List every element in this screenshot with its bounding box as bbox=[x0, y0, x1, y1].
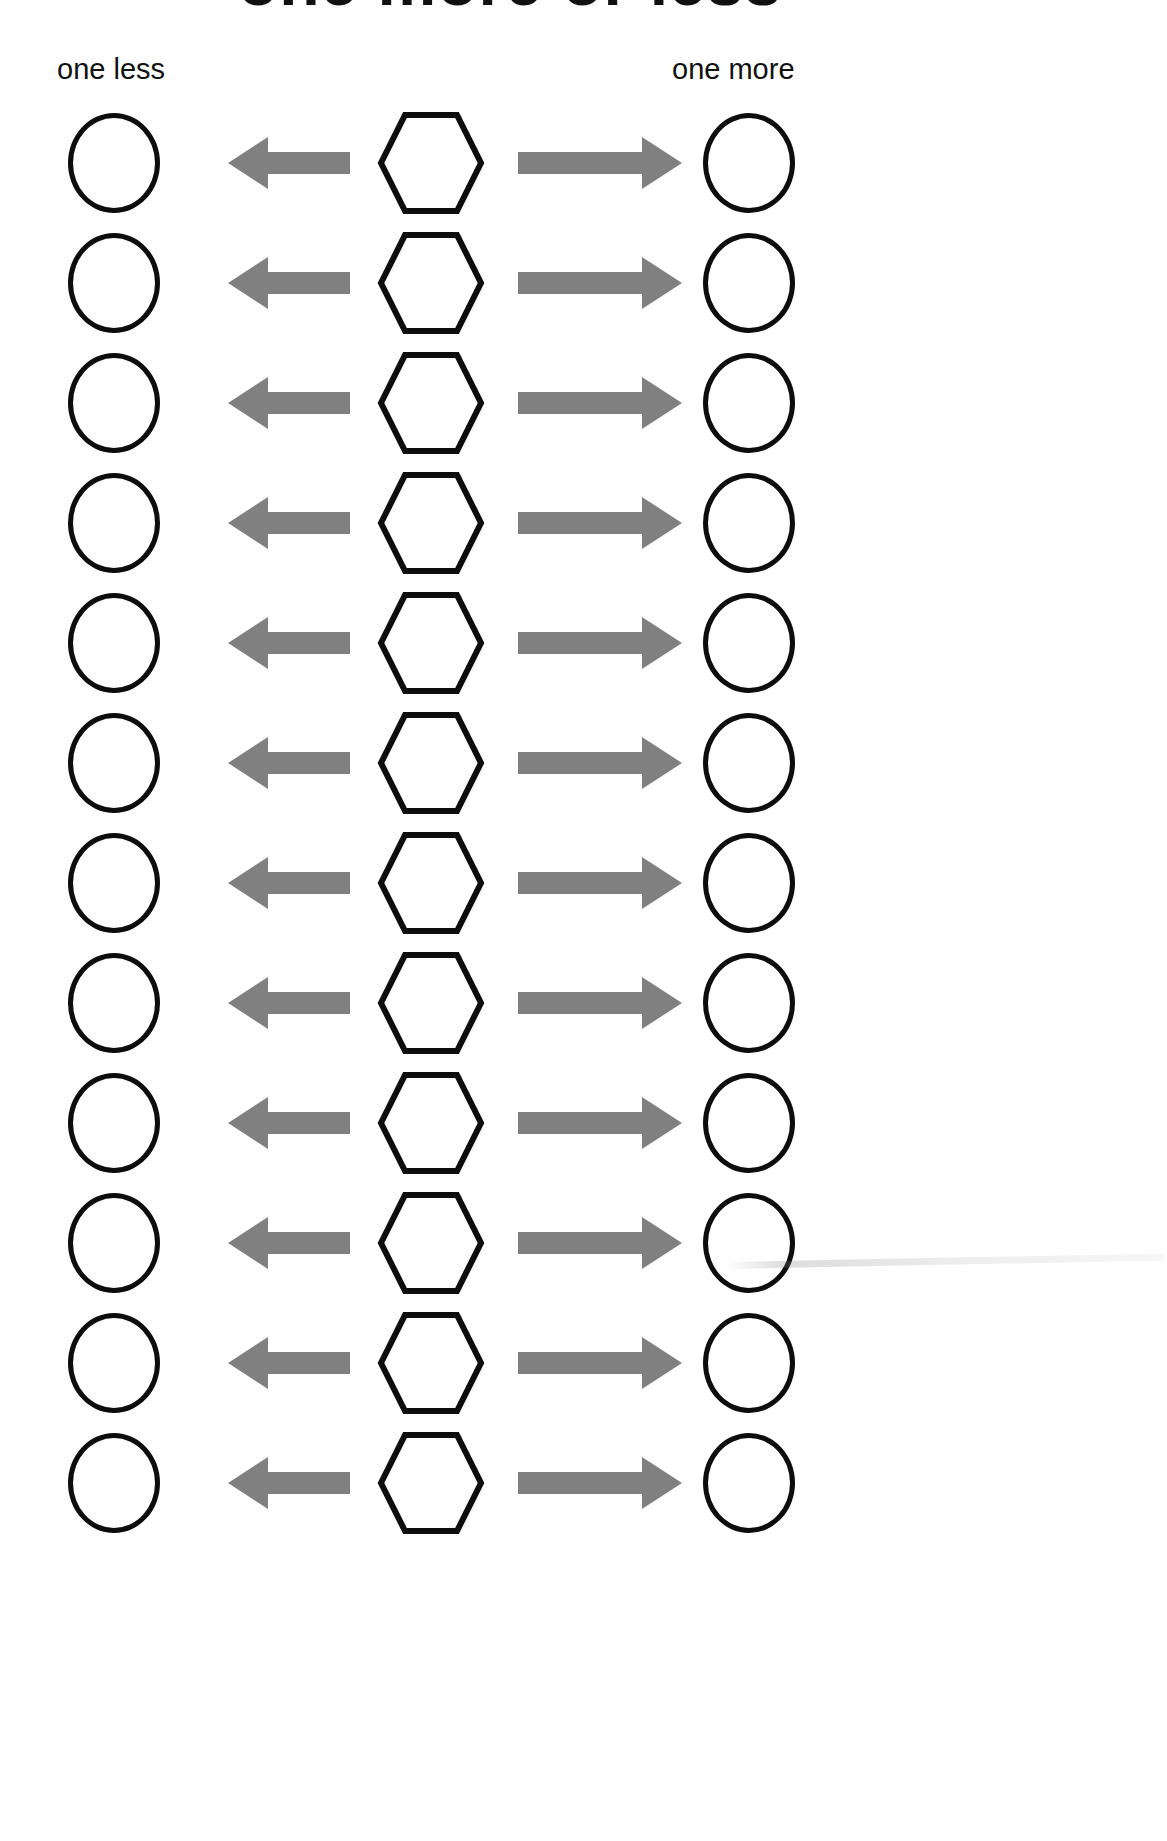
exercise-row bbox=[0, 105, 1167, 225]
arrow-right-icon bbox=[518, 855, 682, 911]
arrow-right-icon bbox=[518, 255, 682, 311]
worksheet-page: one more or less one less one more bbox=[0, 0, 1167, 1841]
exercise-row bbox=[0, 585, 1167, 705]
answer-circle-one-more[interactable] bbox=[703, 113, 795, 213]
exercise-row bbox=[0, 1185, 1167, 1305]
arrow-left-icon bbox=[228, 1455, 350, 1511]
arrow-left-icon bbox=[228, 855, 350, 911]
arrow-left-icon bbox=[228, 1335, 350, 1391]
arrow-left-icon bbox=[228, 615, 350, 671]
answer-circle-one-more[interactable] bbox=[703, 1313, 795, 1413]
answer-circle-one-less[interactable] bbox=[68, 593, 160, 693]
number-hexagon[interactable] bbox=[375, 587, 487, 699]
number-hexagon[interactable] bbox=[375, 1067, 487, 1179]
answer-circle-one-less[interactable] bbox=[68, 113, 160, 213]
number-hexagon[interactable] bbox=[375, 827, 487, 939]
exercise-row bbox=[0, 225, 1167, 345]
answer-circle-one-less[interactable] bbox=[68, 953, 160, 1053]
exercise-row bbox=[0, 345, 1167, 465]
arrow-right-icon bbox=[518, 135, 682, 191]
arrow-left-icon bbox=[228, 255, 350, 311]
arrow-right-icon bbox=[518, 1335, 682, 1391]
answer-circle-one-less[interactable] bbox=[68, 833, 160, 933]
number-hexagon[interactable] bbox=[375, 1427, 487, 1539]
number-hexagon[interactable] bbox=[375, 947, 487, 1059]
answer-circle-one-more[interactable] bbox=[703, 473, 795, 573]
answer-circle-one-less[interactable] bbox=[68, 1193, 160, 1293]
arrow-left-icon bbox=[228, 975, 350, 1031]
answer-circle-one-more[interactable] bbox=[703, 233, 795, 333]
answer-circle-one-more[interactable] bbox=[703, 1193, 795, 1293]
exercise-rows bbox=[0, 0, 1167, 1841]
answer-circle-one-less[interactable] bbox=[68, 473, 160, 573]
number-hexagon[interactable] bbox=[375, 347, 487, 459]
number-hexagon[interactable] bbox=[375, 707, 487, 819]
answer-circle-one-more[interactable] bbox=[703, 1433, 795, 1533]
answer-circle-one-more[interactable] bbox=[703, 1073, 795, 1173]
exercise-row bbox=[0, 1065, 1167, 1185]
exercise-row bbox=[0, 1305, 1167, 1425]
arrow-left-icon bbox=[228, 375, 350, 431]
arrow-right-icon bbox=[518, 615, 682, 671]
arrow-left-icon bbox=[228, 1095, 350, 1151]
answer-circle-one-less[interactable] bbox=[68, 1433, 160, 1533]
answer-circle-one-more[interactable] bbox=[703, 713, 795, 813]
exercise-row bbox=[0, 825, 1167, 945]
answer-circle-one-less[interactable] bbox=[68, 1313, 160, 1413]
arrow-right-icon bbox=[518, 1455, 682, 1511]
arrow-right-icon bbox=[518, 735, 682, 791]
arrow-left-icon bbox=[228, 1215, 350, 1271]
arrow-left-icon bbox=[228, 135, 350, 191]
exercise-row bbox=[0, 1425, 1167, 1545]
exercise-row bbox=[0, 705, 1167, 825]
answer-circle-one-less[interactable] bbox=[68, 353, 160, 453]
arrow-right-icon bbox=[518, 375, 682, 431]
answer-circle-one-less[interactable] bbox=[68, 1073, 160, 1173]
arrow-right-icon bbox=[518, 1215, 682, 1271]
number-hexagon[interactable] bbox=[375, 1307, 487, 1419]
arrow-right-icon bbox=[518, 1095, 682, 1151]
answer-circle-one-less[interactable] bbox=[68, 233, 160, 333]
answer-circle-one-less[interactable] bbox=[68, 713, 160, 813]
number-hexagon[interactable] bbox=[375, 467, 487, 579]
arrow-right-icon bbox=[518, 975, 682, 1031]
answer-circle-one-more[interactable] bbox=[703, 353, 795, 453]
number-hexagon[interactable] bbox=[375, 107, 487, 219]
number-hexagon[interactable] bbox=[375, 227, 487, 339]
answer-circle-one-more[interactable] bbox=[703, 833, 795, 933]
exercise-row bbox=[0, 945, 1167, 1065]
arrow-left-icon bbox=[228, 735, 350, 791]
arrow-left-icon bbox=[228, 495, 350, 551]
number-hexagon[interactable] bbox=[375, 1187, 487, 1299]
exercise-row bbox=[0, 465, 1167, 585]
answer-circle-one-more[interactable] bbox=[703, 953, 795, 1053]
arrow-right-icon bbox=[518, 495, 682, 551]
answer-circle-one-more[interactable] bbox=[703, 593, 795, 693]
